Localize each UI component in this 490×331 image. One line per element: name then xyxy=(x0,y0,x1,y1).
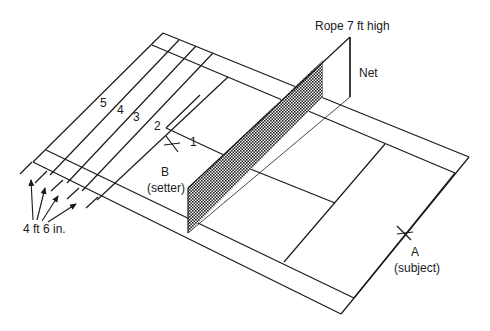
subject-letter: A xyxy=(408,246,422,258)
net-label: Net xyxy=(359,67,378,79)
setter-role: (setter) xyxy=(143,182,189,194)
zone-5-label: 5 xyxy=(100,97,107,109)
spacing-label: 4 ft 6 in. xyxy=(23,223,66,235)
zone-3-label: 3 xyxy=(133,111,140,123)
zone-4-label: 4 xyxy=(117,104,124,116)
setter-letter: B xyxy=(158,166,172,178)
net-mesh xyxy=(188,60,323,233)
right-back-line xyxy=(354,173,455,298)
court-drawing xyxy=(0,0,490,331)
zone-1-label: 1 xyxy=(190,136,197,148)
rope-label: Rope 7 ft high xyxy=(315,20,390,32)
diagram-canvas: Rope 7 ft high Net 5 4 3 2 1 B (setter) … xyxy=(0,0,490,331)
setter-position-marker xyxy=(164,136,180,152)
spacing-arrows xyxy=(31,180,76,222)
subject-role: (subject) xyxy=(389,262,445,274)
zone-2-label: 2 xyxy=(154,120,161,132)
